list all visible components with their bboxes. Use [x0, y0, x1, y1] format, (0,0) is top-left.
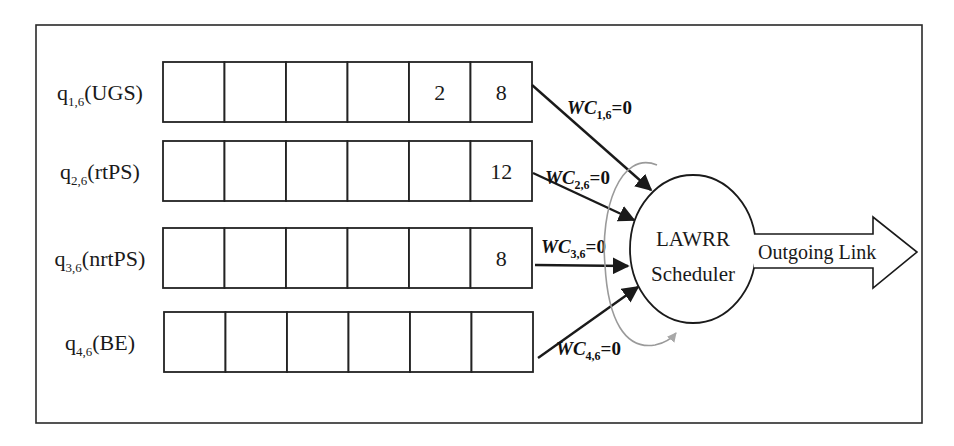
- weight-counter-subscript: 2,6: [575, 178, 590, 192]
- queue-label: q4,6(BE): [65, 330, 135, 359]
- queue-row: q4,6(BE): [65, 312, 533, 372]
- queue-cell: [349, 312, 411, 372]
- queue-cell: [410, 312, 472, 372]
- scheduler-node: LAWRR Scheduler: [630, 175, 756, 323]
- queue-label-name: q: [57, 80, 68, 105]
- queue-label-class: (BE): [92, 330, 135, 355]
- queue-label-name: q: [65, 330, 76, 355]
- weight-counter-label: WC2,6=0: [545, 167, 610, 192]
- queue-label-subscript: 1,6: [68, 94, 85, 109]
- queue-label: q3,6(nrtPS): [55, 246, 146, 275]
- weight-counter-value: =0: [601, 338, 621, 359]
- queue-cell: [163, 62, 225, 122]
- weight-counter-subscript: 4,6: [586, 349, 601, 363]
- weight-counter-name: WC: [541, 236, 571, 257]
- queue-label-class: (UGS): [84, 80, 143, 105]
- weight-counter-subscript: 3,6: [571, 247, 586, 261]
- queue-row: q3,6(nrtPS)8: [55, 228, 532, 288]
- weight-counter-name: WC: [556, 338, 586, 359]
- queue-row: q1,6(UGS)28: [57, 62, 532, 122]
- queue-label-name: q: [55, 246, 66, 271]
- queue-cell: [225, 141, 287, 201]
- queue-cell: [409, 141, 471, 201]
- queue-label: q1,6(UGS): [57, 80, 143, 109]
- weight-counter-value: =0: [586, 236, 606, 257]
- queue-cell: [409, 228, 471, 288]
- queue-label: q2,6(rtPS): [60, 159, 140, 188]
- queue-cell: [163, 141, 225, 201]
- queue-cell: [226, 312, 288, 372]
- weight-counter-label: WC1,6=0: [567, 97, 632, 122]
- outgoing-link-label: Outgoing Link: [758, 241, 876, 264]
- queue-cell: [286, 62, 348, 122]
- weight-counter-value: =0: [612, 97, 632, 118]
- queue-label-subscript: 3,6: [66, 260, 83, 275]
- queue-cell-value: 8: [496, 80, 507, 105]
- queue-cell: [225, 62, 287, 122]
- weight-counter-name: WC: [545, 167, 575, 188]
- queue-row: q2,6(rtPS)12: [60, 141, 532, 201]
- queue-cell: [286, 141, 348, 201]
- queue-cell: [225, 228, 287, 288]
- queue-cell: [472, 312, 534, 372]
- queue-cell: [348, 141, 410, 201]
- scheduler-label-line1: LAWRR: [656, 227, 730, 251]
- queue-cell: [348, 62, 410, 122]
- queue-label-name: q: [60, 159, 71, 184]
- queue-cell-value: 8: [496, 246, 507, 271]
- scheduler-label-line2: Scheduler: [651, 262, 735, 286]
- queue-label-subscript: 2,6: [71, 173, 88, 188]
- queue-label-subscript: 4,6: [76, 344, 93, 359]
- queue-cell: [164, 312, 226, 372]
- queue-cell-value: 12: [490, 159, 512, 184]
- feed-arrow: [535, 265, 628, 266]
- weight-counter-label: WC3,6=0: [541, 236, 606, 261]
- weight-counter-subscript: 1,6: [597, 108, 612, 122]
- weight-counter-label: WC4,6=0: [556, 338, 621, 363]
- queue-cell: [348, 228, 410, 288]
- feed-arrow: [538, 287, 638, 358]
- weight-counter-name: WC: [567, 97, 597, 118]
- outgoing-link-arrow: Outgoing Link: [754, 217, 917, 288]
- queue-label-class: (nrtPS): [82, 246, 146, 271]
- queue-group: q1,6(UGS)28q2,6(rtPS)12q3,6(nrtPS)8q4,6(…: [55, 62, 533, 372]
- queue-cell: [287, 312, 349, 372]
- scheduler-diagram: q1,6(UGS)28q2,6(rtPS)12q3,6(nrtPS)8q4,6(…: [0, 0, 954, 446]
- queue-label-class: (rtPS): [87, 159, 140, 184]
- weight-counter-value: =0: [590, 167, 610, 188]
- queue-cell-value: 2: [434, 80, 445, 105]
- queue-cell: [163, 228, 225, 288]
- queue-cell: [286, 228, 348, 288]
